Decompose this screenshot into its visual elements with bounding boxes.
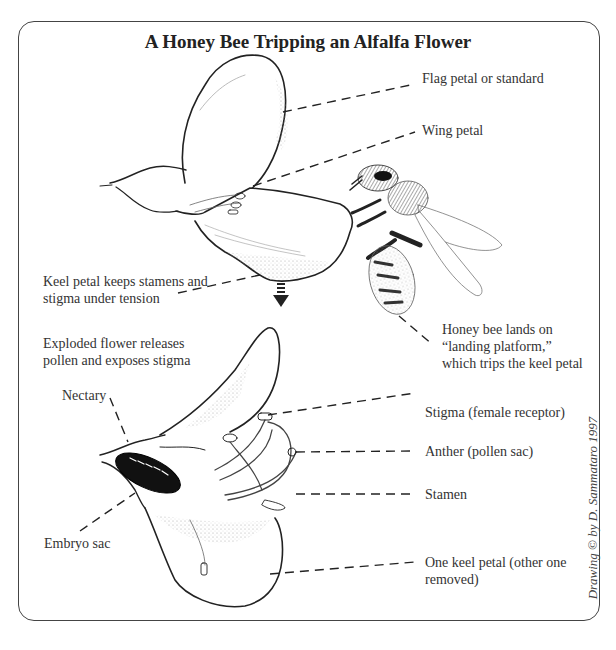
label-one-keel-2: removed) [425,571,479,588]
honey-bee [350,165,502,320]
label-nectary: Nectary [62,387,106,404]
label-bee-1: Honey bee lands on [442,321,553,338]
label-keel-tension-1: Keel petal keeps stamens and [43,273,208,290]
label-embryo-sac: Embryo sac [44,535,110,552]
closed-flower [100,55,352,281]
label-stigma: Stigma (female receptor) [425,404,565,421]
label-exploded-1: Exploded flower releases [43,335,185,352]
label-wing-petal: Wing petal [422,122,483,139]
label-exploded-2: pollen and exposes stigma [43,352,190,369]
label-bee-3: which trips the keel petal [442,355,583,372]
embryo-sac [110,445,186,502]
label-flag-petal: Flag petal or standard [422,70,544,87]
label-one-keel-1: One keel petal (other one [425,554,567,571]
label-anther: Anther (pollen sac) [425,443,533,460]
label-stamen: Stamen [425,486,467,503]
exploded-flower [100,328,296,607]
label-keel-tension-2: stigma under tension [43,290,160,307]
flag-petal [182,55,285,190]
down-arrow-icon [273,283,289,307]
drawing-credit: Drawing © by D. Sammataro 1997 [585,417,601,600]
label-bee-2: “landing platform,” [442,338,552,355]
